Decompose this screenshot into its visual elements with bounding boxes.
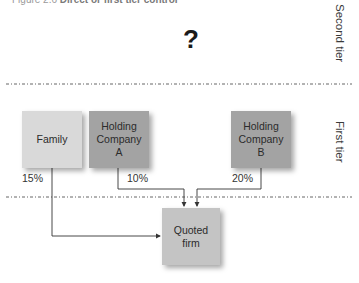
stake-holding-b: 20% [232, 172, 253, 184]
node-holding-company-b: HoldingCompanyB [231, 111, 291, 168]
label-line: Quoted [174, 224, 208, 236]
label-line: Holding [243, 120, 279, 132]
label-line: A [115, 146, 122, 158]
node-family: Family [22, 111, 82, 168]
stake-family: 15% [22, 172, 43, 184]
label-line: B [257, 146, 264, 158]
node-holding-company-a: HoldingCompanyA [89, 111, 149, 168]
label-line: Company [97, 133, 142, 145]
label-line: firm [182, 237, 200, 249]
node-family-label: Family [37, 133, 68, 146]
stake-holding-a: 10% [127, 172, 148, 184]
label-line: Holding [101, 120, 137, 132]
label-line: Company [239, 133, 284, 145]
node-quoted-firm: Quotedfirm [162, 208, 220, 265]
